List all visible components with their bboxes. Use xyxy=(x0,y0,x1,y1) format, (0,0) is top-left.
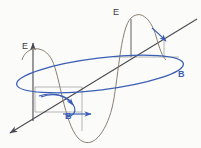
em-wave-figure: E E B B xyxy=(0,0,201,148)
perspective-guides xyxy=(35,36,179,131)
b-field-ellipse xyxy=(15,48,186,100)
e-field-wave xyxy=(22,15,166,143)
b-field-arrows xyxy=(39,28,166,114)
b-field-wave xyxy=(15,48,186,117)
b-field-label-bottom: B xyxy=(65,112,72,121)
b-arrow-upper-right[interactable] xyxy=(152,28,166,41)
em-wave-diagram xyxy=(0,0,201,148)
b-field-label-right: B xyxy=(178,70,185,79)
propagation-axis-line xyxy=(10,19,197,133)
e-field-label-top: E xyxy=(113,8,119,17)
e-axis-label: E xyxy=(22,42,28,51)
propagation-axis xyxy=(10,19,197,133)
e-field-curve xyxy=(22,15,166,143)
